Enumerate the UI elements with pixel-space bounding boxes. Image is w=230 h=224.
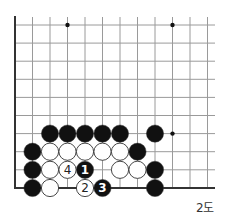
white-stone: 2: [76, 179, 93, 196]
black-stone: [94, 125, 111, 142]
black-stone: [59, 125, 76, 142]
black-stone: [24, 143, 41, 160]
move-number-label: 4: [64, 163, 72, 177]
black-stone: [76, 125, 93, 142]
white-stone: [41, 161, 58, 178]
star-point-icon: [65, 23, 69, 27]
black-stone: [111, 125, 128, 142]
white-stone: [59, 143, 76, 160]
stones: 4123: [24, 125, 164, 197]
go-board: 4123: [0, 0, 230, 224]
white-stone: [41, 179, 58, 196]
black-stone: 1: [76, 161, 93, 178]
white-stone: [111, 143, 128, 160]
black-stone: [24, 161, 41, 178]
star-point-icon: [170, 23, 174, 27]
black-stone: [146, 161, 163, 178]
black-stone: 3: [94, 179, 111, 196]
white-stone: [94, 143, 111, 160]
black-stone: [146, 179, 163, 196]
black-stone: [24, 179, 41, 196]
black-stone: [41, 125, 58, 142]
white-stone: [41, 143, 58, 160]
move-number-label: 3: [98, 181, 106, 195]
white-stone: [111, 161, 128, 178]
diagram-caption: 2도: [196, 198, 214, 215]
star-point-icon: [170, 131, 174, 135]
white-stone: 4: [59, 161, 76, 178]
black-stone: [146, 125, 163, 142]
move-number-label: 2: [81, 181, 89, 195]
black-stone: [129, 143, 146, 160]
white-stone: [76, 143, 93, 160]
white-stone: [129, 161, 146, 178]
move-number-label: 1: [81, 163, 89, 177]
